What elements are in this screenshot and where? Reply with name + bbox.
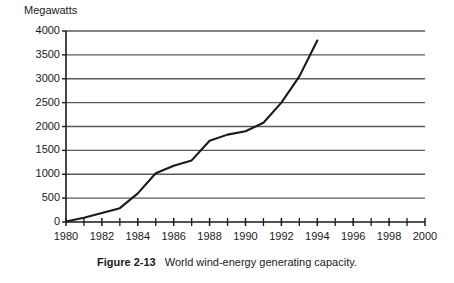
figure-caption-text: World wind-energy generating capacity. bbox=[165, 256, 357, 268]
gridlines-group bbox=[66, 31, 425, 198]
y-tick-label-1500: 1500 bbox=[20, 143, 60, 155]
x-tick-label-1988: 1988 bbox=[190, 230, 230, 242]
data-series-line bbox=[66, 41, 317, 222]
x-tick-label-1998: 1998 bbox=[369, 230, 409, 242]
y-tick-label-500: 500 bbox=[20, 191, 60, 203]
x-tick-label-1996: 1996 bbox=[333, 230, 373, 242]
y-tick-label-4000: 4000 bbox=[20, 24, 60, 36]
x-tick-label-1994: 1994 bbox=[297, 230, 337, 242]
x-tick-label-1980: 1980 bbox=[46, 230, 86, 242]
y-tick-label-3500: 3500 bbox=[20, 48, 60, 60]
figure-container: Megawatts 050010001500200025003000350040… bbox=[0, 0, 454, 283]
x-tick-label-1984: 1984 bbox=[118, 230, 158, 242]
y-tick-label-3000: 3000 bbox=[20, 72, 60, 84]
x-tick-label-1990: 1990 bbox=[226, 230, 266, 242]
y-tick-label-1000: 1000 bbox=[20, 167, 60, 179]
x-tick-label-1986: 1986 bbox=[154, 230, 194, 242]
figure-caption-label: Figure 2-13 bbox=[97, 256, 156, 268]
figure-caption: Figure 2-13World wind-energy generating … bbox=[0, 256, 454, 268]
x-tick-label-1982: 1982 bbox=[82, 230, 122, 242]
y-tick-label-2500: 2500 bbox=[20, 96, 60, 108]
x-tick-label-2000: 2000 bbox=[405, 230, 445, 242]
y-tick-label-0: 0 bbox=[20, 215, 60, 227]
x-tick-label-1992: 1992 bbox=[261, 230, 301, 242]
y-tick-label-2000: 2000 bbox=[20, 120, 60, 132]
